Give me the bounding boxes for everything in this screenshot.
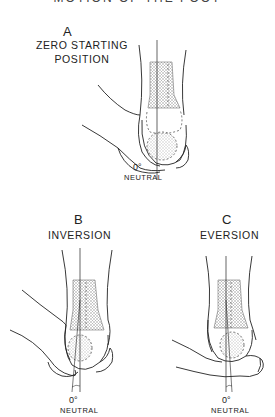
- panel-c-foot-drawing: [172, 256, 263, 392]
- foot-illustrations: [0, 0, 275, 417]
- panel-a-foot-drawing: [82, 40, 189, 180]
- panel-b-foot-drawing: [10, 248, 113, 392]
